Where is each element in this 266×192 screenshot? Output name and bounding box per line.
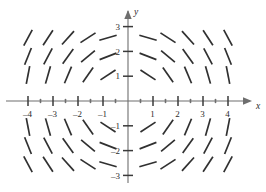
slope-segment [139,35,156,40]
slope-segment [44,48,52,64]
slope-segment [80,159,95,169]
slope-segment [161,140,175,152]
x-tick-label: –4 [22,109,33,119]
slope-segment [183,49,194,64]
slope-segment [81,140,95,152]
slope-segment [163,120,173,135]
x-axis-label: x [255,101,261,111]
slope-segment [204,138,212,154]
slope-segment [25,48,32,65]
plot-canvas: –4–3–2–11234 321–1–2–3 x y [0,0,266,192]
slope-segment [226,118,229,136]
slope-segment [163,68,173,83]
slope-segment [80,33,95,43]
slope-segment [160,33,175,43]
slope-segment [161,51,175,63]
slope-segment [63,49,74,64]
x-axis-arrowhead [243,97,252,104]
slope-segment [140,70,155,80]
slope-segment [64,67,71,84]
slope-segment [83,68,93,83]
y-axis-label: y [133,7,139,17]
slope-segment [203,157,213,172]
slope-segment [64,119,71,136]
slope-segment [24,156,32,172]
slope-segment [43,30,53,45]
slope-segment [100,53,117,59]
slope-segment [99,162,116,167]
y-axis-arrowhead [124,10,131,19]
slope-segment [26,118,29,136]
slope-segment [26,66,29,84]
slope-segment [184,119,191,136]
slope-segment [81,51,95,63]
slope-segment [46,66,51,83]
slope-segment [182,158,194,171]
slope-segment [225,48,232,65]
x-tick-label: 4 [225,109,230,119]
y-tick-label: 2 [116,47,121,57]
slope-segment [183,138,194,153]
slope-segment [225,137,232,154]
x-tick-label: –2 [72,109,82,119]
slope-segment [63,138,74,153]
slope-segment [206,66,211,83]
x-tick-label: –3 [47,109,58,119]
slope-segment [99,35,116,40]
y-tick-label: 3 [116,22,121,32]
slope-segment [160,159,175,169]
slope-segment [25,137,32,154]
slope-segment [62,31,74,44]
slope-segment [224,156,232,172]
slope-segment [140,122,155,132]
x-tick-label: 1 [150,109,155,119]
slope-segment [43,157,53,172]
x-tick-label: –1 [97,109,107,119]
x-tick-label: 2 [175,109,180,119]
slope-segment [100,70,115,80]
slope-segment [46,118,51,135]
x-tick-label-layer: –4–3–2–11234 [22,109,230,119]
slope-segment [62,158,74,171]
slope-segment [206,118,211,135]
slope-segment [226,66,229,84]
slope-segment [140,53,157,59]
slope-field-figure: –4–3–2–11234 321–1–2–3 x y [0,0,266,192]
y-tick-label: –3 [110,171,121,181]
y-tick-label: 1 [116,71,121,81]
slope-segment [184,67,191,84]
slope-segment [139,162,156,167]
slope-segment [204,48,212,64]
slope-segment [203,30,213,45]
x-tick-label: 3 [200,109,205,119]
slope-segment [140,142,157,148]
slope-segment [24,30,32,46]
slope-segment [83,120,93,135]
slope-segment [182,31,194,44]
slope-segment [44,138,52,154]
slope-segment [224,30,232,46]
